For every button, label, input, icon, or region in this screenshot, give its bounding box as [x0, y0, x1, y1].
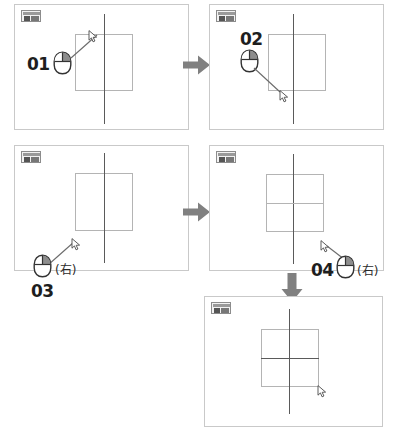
vertical-line — [293, 14, 294, 124]
flow-arrow-right-top — [183, 53, 211, 77]
arrow-cursor — [71, 238, 82, 251]
tool-badge-icon — [216, 151, 236, 163]
mouse-icon-right-click — [33, 254, 52, 278]
step-number-01: 01 — [27, 56, 50, 73]
tool-badge-icon — [216, 10, 236, 22]
flow-arrow-right-bottom — [183, 200, 211, 224]
vertical-line — [104, 14, 105, 124]
tool-badge-icon — [21, 151, 41, 163]
step-number-03: 03 — [31, 283, 54, 300]
vertical-line — [104, 153, 105, 263]
step-diagram: 01 02 — [0, 0, 398, 444]
step-panel-04 — [209, 145, 384, 271]
horizontal-line — [266, 203, 324, 204]
vertical-line — [293, 154, 294, 264]
horizontal-line — [261, 358, 319, 359]
mouse-button-note-04: (右) — [357, 265, 378, 277]
arrow-cursor — [317, 385, 328, 398]
mouse-icon-right-click — [336, 255, 355, 279]
step-number-02: 02 — [240, 31, 263, 48]
tool-badge-icon — [211, 302, 231, 314]
mouse-button-note-03: (右) — [55, 264, 76, 276]
arrow-cursor — [279, 90, 290, 103]
step-number-04: 04 — [311, 262, 334, 279]
step-panel-03 — [14, 145, 189, 271]
step-panel-02 — [209, 4, 384, 130]
tool-badge-icon — [21, 10, 41, 22]
arrow-cursor — [88, 30, 99, 43]
vertical-line — [289, 309, 290, 414]
step-panel-05 — [204, 296, 383, 427]
